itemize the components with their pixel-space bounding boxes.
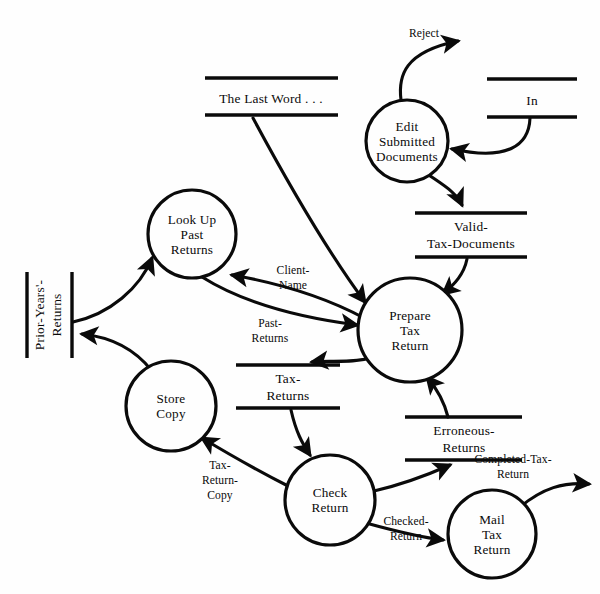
bubble-label-line-3: Returns [171,242,213,257]
process-mail-tax-return[interactable]: Mail Tax Return [448,490,536,578]
flow-label-line-2: Return [497,468,529,481]
flow-label-line-1: Completed-Tax- [474,453,551,466]
store-label: In [526,93,538,108]
flow-label-line-1: Past- [258,317,282,330]
flow-label-line-2: Name [279,279,307,292]
bubble-label-line-3: Return [391,338,428,353]
process-check-return[interactable]: Check Return [285,455,375,545]
store-label-line-1: Valid- [454,219,488,234]
process-look-up-past-returns[interactable]: Look Up Past Returns [148,190,236,278]
bubble-label-line-2: Return [311,500,348,515]
bubble-label-line-1: Look Up [168,212,217,227]
bubble-label-line-2: Past [181,227,204,242]
flow-label-reject: Reject [409,27,440,40]
store-label-line-1: Erroneous- [433,423,495,438]
bubble-label-line-1: Mail [479,512,505,527]
bubble-label-line-2: Copy [156,406,186,421]
bubble-label-line-3: Return [473,542,510,557]
flow-label-line-1: Tax- [209,459,231,472]
flow-label-line-2: Return- [202,474,238,487]
bubble-label-line-2: Submitted [379,134,435,149]
flow-label-line-3: Copy [207,489,233,502]
store-label-line-2: Returns [49,293,64,336]
process-prepare-tax-return[interactable]: Prepare Tax Return [358,278,462,382]
store-label-line-2: Tax-Documents [427,236,515,251]
store-label-line-1: Prior-Years'- [32,280,47,350]
flow-label-line-2: Returns [252,332,289,345]
flow-label-line-2: Return [390,530,422,543]
bubble-label-line-3: Documents [376,149,438,164]
bubble-label-line-2: Tax [482,527,502,542]
process-store-copy[interactable]: Store Copy [126,361,216,451]
store-label-line-1: Tax- [275,371,300,386]
store-label-line-2: Returns [266,388,309,403]
flow-label-line-1: Client- [277,264,310,277]
flow-label-line-1: Checked- [383,515,428,528]
bubble-label-line-1: Check [313,485,348,500]
bubble-label-line-2: Tax [400,323,420,338]
bubble-label-line-1: Store [157,391,186,406]
process-edit-submitted-documents[interactable]: Edit Submitted Documents [366,100,448,182]
bubble-label-line-1: Prepare [389,308,431,323]
store-label: The Last Word . . . [219,91,323,106]
bubble-label-line-1: Edit [396,119,419,134]
data-flow-diagram: The Last Word . . . In Valid- Tax-Docume… [0,0,600,594]
